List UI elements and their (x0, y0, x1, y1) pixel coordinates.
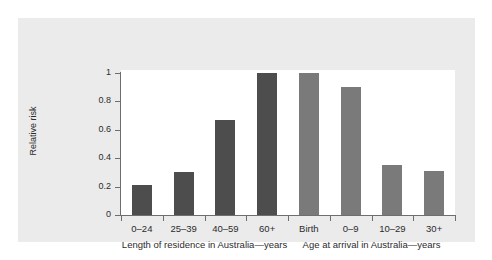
y-axis-tick-label-text: 0.6 (78, 125, 111, 134)
x-axis-tick (288, 216, 289, 221)
y-axis-tick-label-text: 1 (78, 68, 111, 77)
x-axis-tick (455, 216, 456, 221)
y-axis-tick (115, 130, 120, 131)
y-axis-tick-label-text: 0.8 (78, 96, 111, 105)
figure-panel: Relative risk 00.20.40.60.81 0–2425–3940… (18, 18, 475, 242)
y-axis-tick-label: 1 (78, 68, 111, 78)
y-axis-tick-label: 0.6 (78, 125, 111, 135)
y-axis-tick-label-text: 0 (78, 210, 111, 219)
y-axis-tick-label: 0.2 (78, 182, 111, 192)
bar (424, 171, 444, 215)
y-axis-tick (115, 215, 120, 216)
x-axis-category-label: 40–59 (205, 224, 247, 234)
x-axis-category-label: Birth (288, 224, 330, 234)
x-axis-category-label: 25–39 (163, 224, 205, 234)
y-axis-tick (115, 73, 120, 74)
bar (132, 185, 152, 215)
x-axis-group-label: Length of residence in Australia—years (111, 240, 298, 250)
x-axis-group-label: Age at arrival in Australia—years (278, 240, 465, 250)
y-axis-tick (115, 158, 120, 159)
bar (341, 87, 361, 215)
y-axis-title: Relative risk (28, 81, 38, 181)
y-axis-tick (115, 101, 120, 102)
x-axis-tick (246, 216, 247, 221)
x-axis-tick (163, 216, 164, 221)
bar (215, 120, 235, 215)
bar (257, 73, 277, 215)
x-axis-category-label: 0–24 (121, 224, 163, 234)
x-axis-tick (372, 216, 373, 221)
bar (174, 172, 194, 215)
y-axis-line (120, 72, 121, 216)
y-axis-tick-label: 0.8 (78, 96, 111, 106)
x-axis-category-label: 30+ (413, 224, 455, 234)
x-axis-tick (121, 216, 122, 221)
y-axis-tick-label: 0 (78, 210, 111, 220)
x-axis-category-label: 60+ (246, 224, 288, 234)
y-axis-tick-label-text: 0.4 (78, 153, 111, 162)
bar (299, 73, 319, 215)
x-axis-tick (413, 216, 414, 221)
bar (382, 165, 402, 215)
x-axis-category-label: 10–29 (372, 224, 414, 234)
y-axis-tick-label-text: 0.2 (78, 182, 111, 191)
x-axis-category-label: 0–9 (330, 224, 372, 234)
y-axis-tick (115, 187, 120, 188)
chart-figure: Relative risk 00.20.40.60.81 0–2425–3940… (0, 0, 492, 260)
x-axis-tick (205, 216, 206, 221)
plot-area (121, 70, 455, 215)
y-axis-tick-label: 0.4 (78, 153, 111, 163)
x-axis-tick (330, 216, 331, 221)
